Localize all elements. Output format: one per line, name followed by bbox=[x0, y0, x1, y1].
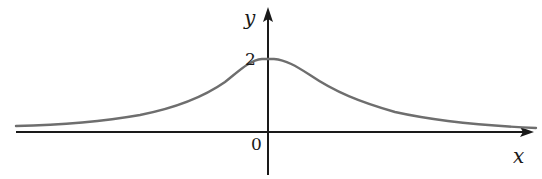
origin-label: 0 bbox=[251, 134, 262, 154]
bell-curve bbox=[16, 59, 536, 128]
y-axis bbox=[263, 7, 273, 175]
peak-value-label: 2 bbox=[245, 49, 256, 69]
x-axis-label: x bbox=[513, 144, 524, 168]
y-axis-label: y bbox=[243, 6, 256, 30]
x-axis bbox=[16, 127, 534, 137]
function-graph: y x 0 2 bbox=[0, 0, 542, 179]
